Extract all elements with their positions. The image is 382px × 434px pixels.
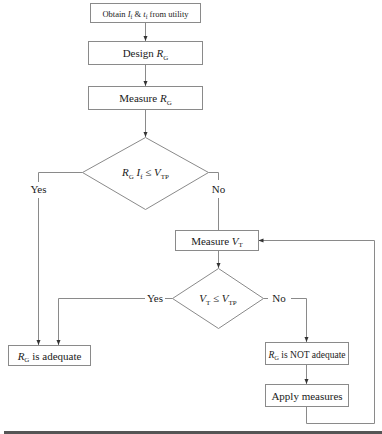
edge-label-d2-yes: Yes [147, 292, 163, 304]
node-rg-not-adequate: RG is NOT adequate [266, 343, 349, 365]
node-rg-adequate: RG is adequate [9, 346, 91, 366]
node-design-rg: Design RG [89, 42, 203, 65]
svg-text:RG is NOT adequate: RG is NOT adequate [267, 350, 345, 362]
edge-d2-yes-adequate [59, 299, 146, 346]
flowchart: Obtain If & tf from utility Design RG Me… [0, 0, 382, 434]
svg-text:Apply measures: Apply measures [271, 390, 342, 402]
node-measure-vt: Measure VT [176, 231, 259, 251]
edge-label-d1-yes: Yes [30, 183, 46, 195]
node-decision-vt-vtp: VT ≤ VTP [173, 269, 264, 329]
edge-d1-no-upper [209, 173, 219, 181]
node-obtain-if-tf: Obtain If & tf from utility [91, 4, 201, 23]
edge-d2-no-not-adequate [291, 299, 307, 343]
edge-label-d1-no: No [212, 183, 226, 195]
edge-label-d2-no: No [272, 292, 286, 304]
node-measure-rg: Measure RG [89, 87, 203, 110]
node-decision-rg-if-vtp: RG If ≤ VTP [83, 138, 209, 210]
node-apply-measures: Apply measures [266, 385, 349, 407]
